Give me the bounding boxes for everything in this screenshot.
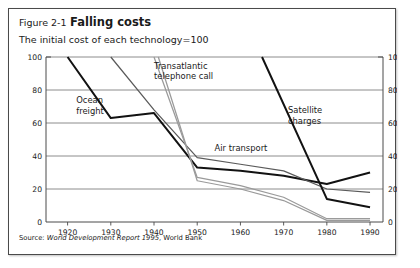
x-tick-label-1980: 1980 <box>317 228 336 237</box>
source-prefix: Source: <box>19 234 47 242</box>
chart-plot-area: 0204060801000204060801001920193019401950… <box>9 9 397 256</box>
x-tick-label-1990: 1990 <box>360 228 379 237</box>
source-suffix: , World Bank <box>159 234 202 242</box>
y-tick-label-right-0: 0 <box>388 218 393 227</box>
x-tick-label-1960: 1960 <box>231 228 250 237</box>
y-tick-label-right-60: 60 <box>388 119 397 128</box>
source-title: World Development Report 1995 <box>47 234 159 242</box>
y-tick-label-right-40: 40 <box>388 152 397 161</box>
series-label-2: Transatlantictelephone call <box>153 61 213 82</box>
series-label-1: Air transport <box>215 143 269 153</box>
series-line-3 <box>158 57 370 220</box>
y-tick-label-right-80: 80 <box>388 86 397 95</box>
y-tick-label-right-100: 100 <box>388 53 397 62</box>
series-label-0: Oceanfreight <box>76 95 104 116</box>
y-tick-label-left-80: 80 <box>32 86 42 95</box>
y-tick-label-right-20: 20 <box>388 185 397 194</box>
series-line-0 <box>68 57 370 184</box>
line-chart: 0204060801000204060801001920193019401950… <box>9 9 397 256</box>
y-tick-label-left-20: 20 <box>32 185 42 194</box>
source-note: Source: World Development Report 1995, W… <box>19 234 202 242</box>
y-tick-label-left-100: 100 <box>28 53 43 62</box>
y-tick-label-left-40: 40 <box>32 152 42 161</box>
series-label-4: Satellitecharges <box>288 105 322 126</box>
y-tick-label-left-0: 0 <box>37 218 42 227</box>
figure-panel: Figure 2-1 Falling costs The initial cos… <box>8 8 396 255</box>
x-tick-label-1970: 1970 <box>274 228 293 237</box>
series-line-1 <box>111 57 370 192</box>
y-tick-label-left-60: 60 <box>32 119 42 128</box>
